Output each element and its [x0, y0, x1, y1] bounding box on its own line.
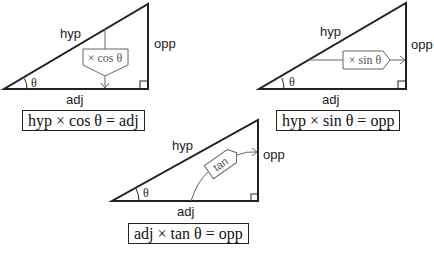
operation-label: × cos θ — [88, 51, 123, 65]
tangent-formula: adj × tan θ = opp — [128, 223, 249, 244]
angle-arc — [136, 189, 139, 202]
theta-label: θ — [31, 76, 37, 90]
sine-diagram: × sin θ hyp opp adj θ — [259, 3, 433, 107]
hyp-label: hyp — [60, 26, 81, 41]
tangent-diagram: tan hyp opp adj θ — [112, 120, 285, 219]
opp-label: opp — [154, 36, 176, 51]
right-angle-marker — [251, 194, 258, 201]
right-angle-marker — [398, 81, 406, 89]
opp-label: opp — [263, 147, 285, 162]
hyp-label: hyp — [172, 138, 193, 153]
adj-label: adj — [322, 92, 339, 107]
operation-label: × sin θ — [349, 53, 382, 67]
cosine-formula: hyp × cos θ = adj — [22, 110, 145, 131]
cosine-diagram: × cos θ hyp opp adj θ — [4, 4, 176, 107]
hyp-label: hyp — [320, 24, 341, 39]
sine-formula: hyp × sin θ = opp — [276, 110, 400, 131]
adj-label: adj — [177, 204, 194, 219]
opp-label: opp — [411, 37, 433, 52]
triangle — [259, 3, 406, 89]
theta-label: θ — [143, 186, 149, 200]
theta-label: θ — [289, 75, 295, 89]
angle-arc — [282, 78, 284, 89]
right-angle-marker — [140, 81, 148, 89]
angle-arc — [25, 79, 28, 90]
adj-label: adj — [66, 92, 83, 107]
triangle — [4, 4, 148, 89]
